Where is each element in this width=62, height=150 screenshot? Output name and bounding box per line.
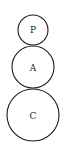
node-c: C bbox=[7, 89, 59, 141]
node-p: P bbox=[18, 15, 48, 45]
label-a: A bbox=[29, 63, 37, 73]
label-c: C bbox=[30, 111, 37, 121]
circle-diagram: P C A bbox=[0, 0, 62, 150]
label-p: P bbox=[30, 25, 36, 35]
node-a: A bbox=[12, 46, 54, 88]
